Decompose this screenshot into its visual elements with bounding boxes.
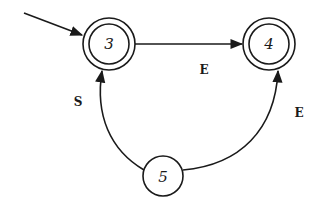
transition-5-to-3-label: S (74, 95, 83, 109)
state-5[interactable]: 5 (143, 156, 183, 196)
state-3[interactable]: 3 (83, 18, 135, 70)
transition-5-to-3 (100, 71, 144, 170)
transition-5-to-4 (183, 71, 278, 170)
state-4[interactable]: 4 (243, 18, 295, 70)
transition-3-to-4-label: E (199, 63, 208, 77)
initial-arrow (24, 13, 82, 35)
diagram-svg: 3 4 5 E S E (0, 0, 321, 199)
transition-5-to-4-label: E (294, 106, 303, 120)
state-4-label: 4 (263, 35, 274, 53)
automaton-diagram: 3 4 5 E S E (0, 0, 321, 199)
state-5-label: 5 (158, 168, 168, 186)
state-3-label: 3 (104, 35, 114, 53)
